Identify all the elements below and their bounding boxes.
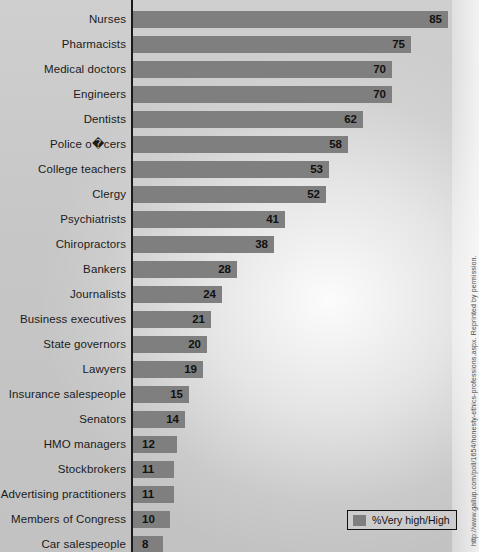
bar [133,11,448,28]
bar-row: College teachers53 [0,161,452,186]
bar-category-label: Psychiatrists [0,211,126,228]
bar-wrapper: 20 [133,336,207,353]
bar-category-label: Nurses [0,11,126,28]
bar-row: Lawyers19 [0,361,452,386]
bar-category-label: Police o�cers [0,136,126,153]
plot-area: Nurses85Pharmacists75Medical doctors70En… [0,0,452,552]
bar-category-label: Car salespeople [0,536,126,552]
bar-category-label: Advertising practitioners [0,486,126,503]
bar-row: Engineers70 [0,86,452,111]
bar-value-label: 58 [329,136,342,153]
bar-category-label: Bankers [0,261,126,278]
bar-category-label: Engineers [0,86,126,103]
bar [133,136,348,153]
bar-row: Advertising practitioners11 [0,486,452,511]
bar-row: Senators14 [0,411,452,436]
bar-value-label: 20 [188,336,201,353]
bar-wrapper: 62 [133,111,363,128]
legend-swatch-icon [353,515,366,526]
bar [133,36,411,53]
chart-legend: %Very high/High [347,510,457,530]
source-credit-text: http://www.gallup.com/poll/1654/honesty-… [470,6,478,546]
bar-value-label: 85 [429,11,442,28]
bar [133,211,285,228]
bar-value-label: 62 [344,111,357,128]
bar-value-label: 24 [203,286,216,303]
bar-wrapper: 38 [133,236,274,253]
bar-value-label: 41 [266,211,279,228]
bar [133,186,326,203]
bar-row: Psychiatrists41 [0,211,452,236]
category-axis-line [131,0,133,552]
bar-value-label: 11 [142,461,154,478]
bar-category-label: Medical doctors [0,61,126,78]
bar-row: Dentists62 [0,111,452,136]
bar-wrapper: 11 [133,486,174,503]
bar [133,86,392,103]
bar-value-label: 53 [310,161,323,178]
bar-wrapper: 10 [133,511,170,528]
bar-value-label: 10 [142,511,155,528]
bar [133,161,329,178]
bar-category-label: Senators [0,411,126,428]
bar-rows: Nurses85Pharmacists75Medical doctors70En… [0,11,452,552]
bar-wrapper: 70 [133,61,392,78]
bar-category-label: Business executives [0,311,126,328]
chart-figure: Nurses85Pharmacists75Medical doctors70En… [0,0,479,552]
bar-row: Car salespeople8 [0,536,452,552]
bar-value-label: 14 [166,411,179,428]
bar-category-label: Stockbrokers [0,461,126,478]
bar-category-label: Insurance salespeople [0,386,126,403]
bar-category-label: College teachers [0,161,126,178]
bar-value-label: 52 [307,186,320,203]
bar [133,236,274,253]
bar-row: Pharmacists75 [0,36,452,61]
bar-category-label: Chiropractors [0,236,126,253]
bar-wrapper: 19 [133,361,203,378]
bar-wrapper: 58 [133,136,348,153]
bar-category-label: Journalists [0,286,126,303]
bar-category-label: Members of Congress [0,511,126,528]
bar-row: Medical doctors70 [0,61,452,86]
bar-row: Insurance salespeople15 [0,386,452,411]
bar-value-label: 11 [142,486,154,503]
bar-row: Police o�cers58 [0,136,452,161]
legend-label: %Very high/High [372,514,450,526]
bar-category-label: Pharmacists [0,36,126,53]
bar-row: Clergy52 [0,186,452,211]
bar-category-label: Dentists [0,111,126,128]
bar-wrapper: 52 [133,186,326,203]
bar-wrapper: 8 [133,536,163,552]
bar-row: Journalists24 [0,286,452,311]
bar-row: Bankers28 [0,261,452,286]
bar-value-label: 19 [184,361,197,378]
bar-wrapper: 24 [133,286,222,303]
bar-row: Nurses85 [0,11,452,36]
bar-value-label: 70 [373,86,386,103]
bar-category-label: State governors [0,336,126,353]
bar-row: Chiropractors38 [0,236,452,261]
bar-wrapper: 21 [133,311,211,328]
bar-wrapper: 28 [133,261,237,278]
bar-category-label: Clergy [0,186,126,203]
bar-wrapper: 14 [133,411,185,428]
bar [133,111,363,128]
bar [133,61,392,78]
bar-value-label: 75 [392,36,405,53]
bar-row: State governors20 [0,336,452,361]
bar-row: Business executives21 [0,311,452,336]
bar-value-label: 8 [142,536,148,552]
bar-category-label: Lawyers [0,361,126,378]
bar-wrapper: 15 [133,386,189,403]
bar-value-label: 12 [142,436,155,453]
bar [133,436,177,453]
bar-wrapper: 12 [133,436,177,453]
bar-row: HMO managers12 [0,436,452,461]
bar-value-label: 21 [192,311,205,328]
bar-wrapper: 70 [133,86,392,103]
bar-row: Stockbrokers11 [0,461,452,486]
bar-wrapper: 41 [133,211,285,228]
bar-wrapper: 53 [133,161,329,178]
bar-wrapper: 75 [133,36,411,53]
bar-wrapper: 85 [133,11,448,28]
